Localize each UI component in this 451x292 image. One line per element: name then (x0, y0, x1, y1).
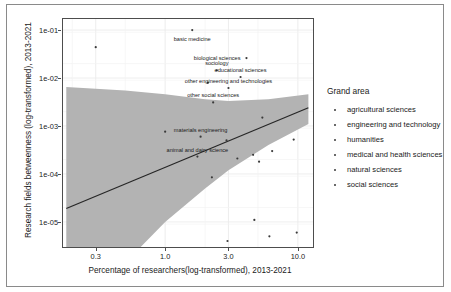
legend-item[interactable]: social sciences (327, 178, 445, 191)
point-label: other engineering and technologies (185, 78, 273, 84)
point-label: other social sciences (187, 92, 239, 98)
data-point (200, 136, 202, 138)
data-point (95, 46, 97, 48)
legend-item-label: humanities (343, 135, 384, 144)
data-point (271, 150, 273, 152)
y-tick-mark (58, 126, 61, 127)
plot-panel: basic medicinebiological sciencessociolo… (62, 18, 314, 248)
data-point (268, 235, 270, 237)
x-tick-label: 3.0 (223, 252, 233, 261)
y-tick-mark (58, 222, 61, 223)
y-tick-mark (58, 78, 61, 79)
data-point (258, 161, 260, 163)
legend: Grand area agricultural sciencesengineer… (327, 86, 445, 193)
data-point (225, 139, 227, 141)
legend-item[interactable]: humanities (327, 133, 445, 146)
x-axis-tick-labels: 0.31.03.010.0 (62, 252, 314, 264)
legend-item[interactable]: medical and health sciences (327, 148, 445, 161)
legend-item-label: social sciences (343, 180, 398, 189)
legend-item[interactable]: agricultural sciences (327, 103, 445, 116)
y-tick-mark (58, 30, 61, 31)
legend-dot-icon (327, 184, 343, 186)
legend-dot-glyph (334, 169, 336, 171)
legend-items: agricultural sciencesengineering and tec… (327, 103, 445, 191)
data-point (226, 240, 228, 242)
legend-dot-glyph (334, 184, 336, 186)
data-point (211, 176, 213, 178)
data-point (227, 87, 229, 89)
y-axis-tick-labels: 1e-011e-021e-031e-041e-05 (24, 18, 58, 248)
point-label: sociology (205, 60, 229, 66)
x-axis-title: Percentage of researchers(log-transforme… (60, 266, 320, 275)
legend-dot-icon (327, 124, 343, 126)
point-label: basic medicine (174, 36, 211, 42)
y-tick-label: 1e-02 (39, 74, 58, 83)
x-tick-mark (96, 248, 97, 251)
data-point (245, 57, 247, 59)
legend-dot-glyph (334, 124, 336, 126)
x-tick-mark (165, 248, 166, 251)
data-point (191, 29, 193, 31)
legend-dot-glyph (334, 139, 336, 141)
y-tick-label: 1e-05 (39, 217, 58, 226)
x-tick-mark (228, 248, 229, 251)
data-point (236, 157, 238, 159)
point-label: educational sciences (215, 67, 267, 73)
legend-dot-icon (327, 169, 343, 171)
legend-dot-glyph (334, 154, 336, 156)
legend-item-label: medical and health sciences (343, 150, 442, 159)
data-point (212, 101, 214, 103)
point-label: animal and dairy science (167, 147, 229, 153)
data-point (293, 139, 295, 141)
legend-item-label: natural sciences (343, 165, 402, 174)
data-point (296, 231, 298, 233)
x-tick-label: 1.0 (160, 252, 170, 261)
legend-item-label: engineering and technology (343, 120, 440, 129)
figure-root: Research fields betweenness (log-transfo… (0, 0, 451, 292)
legend-dot-icon (327, 154, 343, 156)
legend-item[interactable]: natural sciences (327, 163, 445, 176)
data-point (164, 131, 166, 133)
legend-title: Grand area (327, 86, 445, 96)
y-tick-mark (58, 174, 61, 175)
y-tick-label: 1e-03 (39, 121, 58, 130)
data-point (261, 116, 263, 118)
x-tick-label: 0.3 (91, 252, 101, 261)
y-tick-label: 1e-04 (39, 169, 58, 178)
scatter-plot-svg: basic medicinebiological sciencessociolo… (63, 19, 313, 247)
legend-dot-icon (327, 139, 343, 141)
legend-item[interactable]: engineering and technology (327, 118, 445, 131)
legend-dot-icon (327, 109, 343, 111)
confidence-band (66, 87, 308, 247)
y-tick-label: 1e-01 (39, 26, 58, 35)
data-point (196, 156, 198, 158)
legend-item-label: agricultural sciences (343, 105, 416, 114)
point-label: materials engineering (174, 127, 227, 133)
x-tick-mark (298, 248, 299, 251)
x-tick-label: 10.0 (291, 252, 305, 261)
legend-dot-glyph (334, 109, 336, 111)
data-point (253, 219, 255, 221)
data-point (252, 154, 254, 156)
